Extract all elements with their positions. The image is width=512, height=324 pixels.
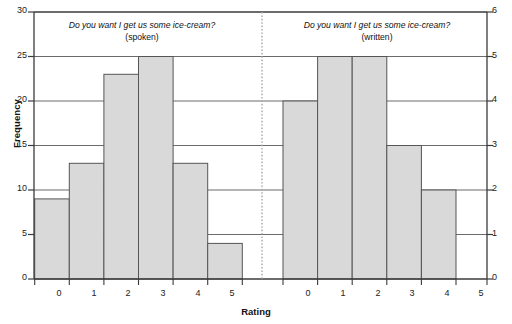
bar-spoken-2 xyxy=(104,74,139,279)
bars-spoken xyxy=(35,57,243,280)
plot-svg xyxy=(0,0,512,324)
x-ticks-right xyxy=(283,279,487,285)
bar-spoken-5 xyxy=(208,243,243,279)
bar-written-2 xyxy=(352,57,387,280)
x-ticks-left xyxy=(35,279,243,285)
y-ticks-right xyxy=(487,12,493,279)
bar-spoken-1 xyxy=(69,163,104,279)
bar-written-3 xyxy=(387,146,422,280)
bar-written-4 xyxy=(421,190,456,279)
bar-spoken-4 xyxy=(173,163,208,279)
bar-written-1 xyxy=(318,57,353,280)
chart-figure: Frequency Rating 30 25 20 15 10 5 0 6 5 … xyxy=(0,0,512,324)
bar-spoken-0 xyxy=(35,199,70,279)
bars-written xyxy=(283,57,456,280)
bar-written-0 xyxy=(283,101,318,279)
bar-spoken-3 xyxy=(139,57,174,280)
y-ticks-left xyxy=(28,12,34,279)
